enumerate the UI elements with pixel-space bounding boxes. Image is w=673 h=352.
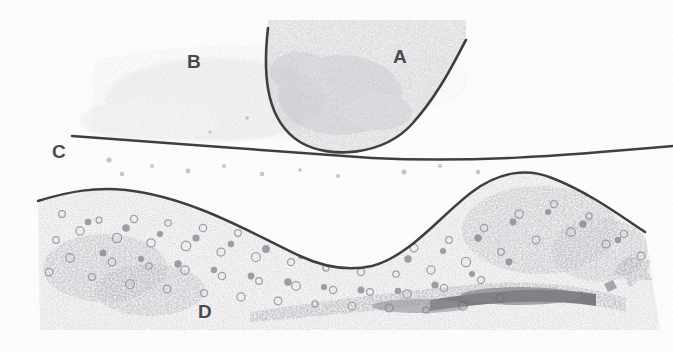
region-label-b: B bbox=[187, 52, 201, 71]
micrograph-canvas bbox=[0, 0, 673, 352]
region-label-c: C bbox=[52, 142, 66, 161]
region-label-d: D bbox=[198, 302, 212, 321]
micrograph-figure: B A C D bbox=[0, 0, 673, 352]
region-label-a: A bbox=[393, 47, 407, 66]
